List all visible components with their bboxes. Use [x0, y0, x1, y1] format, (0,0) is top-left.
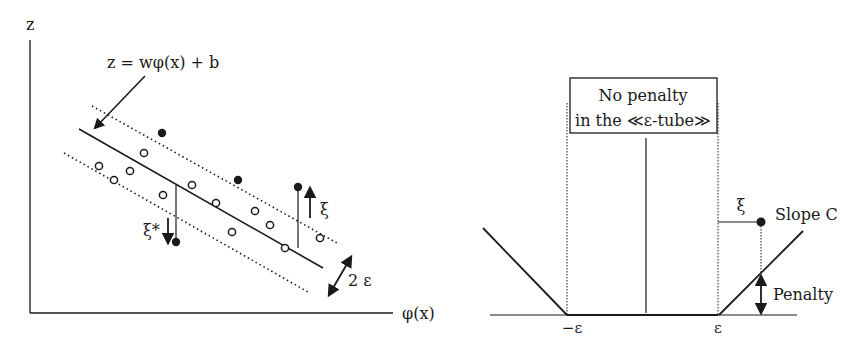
open-data-point	[251, 207, 258, 214]
open-data-point	[110, 176, 117, 183]
open-data-point	[212, 199, 219, 206]
y-axis-label: z	[26, 15, 34, 34]
left-panel-regression: z φ(x) z = wφ(x) + b ξ* ξ 2 ε	[26, 15, 435, 323]
left-loss-slope	[483, 228, 567, 315]
open-data-point	[159, 191, 166, 198]
slack-below-label: ξ*	[143, 221, 160, 240]
outlier-data-point	[158, 129, 166, 137]
penalty-label: Penalty	[773, 285, 833, 304]
data-points	[95, 129, 323, 252]
equation-pointer-arrow	[95, 76, 145, 128]
open-data-point	[316, 234, 323, 241]
open-data-point	[126, 167, 133, 174]
regression-equation: z = wφ(x) + b	[107, 53, 219, 72]
open-data-point	[266, 221, 273, 228]
svr-diagram: z φ(x) z = wφ(x) + b ξ* ξ 2 ε	[0, 0, 866, 346]
no-penalty-line2: in the ≪ε-tube≫	[575, 111, 711, 130]
no-penalty-line1: No penalty	[599, 86, 688, 105]
tube-width-label: 2 ε	[348, 271, 372, 290]
slack-label: ξ	[737, 196, 746, 215]
outlier-point	[757, 218, 766, 227]
open-data-point	[95, 162, 102, 169]
neg-epsilon-label: −ε	[562, 319, 583, 337]
open-data-point	[188, 181, 195, 188]
open-data-point	[281, 244, 288, 251]
x-axis-label: φ(x)	[402, 304, 435, 323]
slope-label: Slope C	[775, 205, 838, 224]
pos-epsilon-label: ε	[714, 319, 722, 337]
outlier-data-point	[234, 176, 242, 184]
right-panel-loss-function: No penalty in the ≪ε-tube≫ −ε ε ξ Slope …	[483, 78, 838, 337]
outlier-data-point	[172, 238, 180, 246]
outlier-data-point	[294, 183, 302, 191]
slack-above-label: ξ	[320, 200, 329, 219]
open-data-point	[228, 228, 235, 235]
open-data-point	[140, 149, 147, 156]
